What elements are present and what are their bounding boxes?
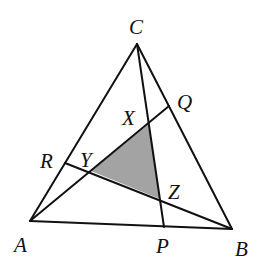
label-q: Q: [177, 90, 192, 114]
label-c: C: [129, 15, 144, 39]
label-a: A: [12, 233, 27, 257]
label-p: P: [155, 234, 169, 258]
label-x: X: [121, 106, 136, 130]
side-ca: [30, 44, 137, 221]
label-r: R: [39, 149, 53, 173]
label-y: Y: [80, 148, 94, 172]
segments: [30, 44, 232, 229]
label-z: Z: [168, 180, 180, 204]
triangle-diagram: CQXRYZAPB: [0, 0, 257, 265]
side-ab: [30, 221, 232, 229]
label-b: B: [235, 237, 248, 261]
diagram-svg: CQXRYZAPB: [0, 0, 257, 265]
